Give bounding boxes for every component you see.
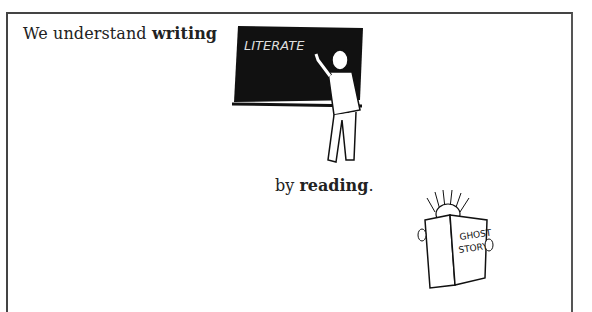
teacher-chalkboard-illustration: LITERATE (230, 20, 375, 170)
reader-book-illustration: GHOST STORY (405, 190, 500, 290)
line2-suffix: . (368, 176, 373, 195)
line2-emphasis: reading (299, 176, 368, 195)
line1-emphasis: writing (152, 24, 217, 43)
heading-writing: We understand writing (23, 24, 217, 43)
line2-prefix: by (275, 176, 299, 195)
chalkboard-text: LITERATE (244, 38, 305, 53)
heading-reading: by reading. (275, 176, 374, 195)
line1-prefix: We understand (23, 24, 152, 43)
